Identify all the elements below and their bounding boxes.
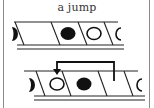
- arrowhead-icon: [53, 69, 61, 75]
- filled-circle-icon: [77, 78, 92, 91]
- tape-after: [0, 58, 154, 108]
- half-hollow-circle-icon: [116, 28, 121, 40]
- hollow-circle-icon: [87, 28, 101, 40]
- half-filled-circle-icon: [12, 27, 18, 41]
- hollow-circle-icon: [50, 78, 64, 90]
- filled-circle-icon: [61, 27, 76, 40]
- tape-before: [0, 18, 154, 54]
- half-filled-circle-icon: [29, 78, 35, 92]
- figure-title: a jump: [0, 1, 154, 14]
- half-hollow-circle-icon: [137, 79, 142, 91]
